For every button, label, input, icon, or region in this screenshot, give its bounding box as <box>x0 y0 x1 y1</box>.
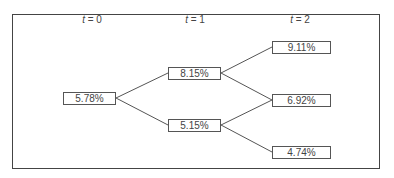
branch-n0-n1d <box>116 98 168 125</box>
node-t2-downdown: 4.74% <box>272 146 331 159</box>
branch-n1d-n2ud <box>221 100 272 125</box>
node-t1-down: 5.15% <box>168 119 221 132</box>
branch-n0-n1u <box>116 73 168 98</box>
node-t2-upup: 9.11% <box>272 41 331 54</box>
node-t2-updown: 6.92% <box>272 94 331 107</box>
time-label-t2: t = 2 <box>290 14 310 25</box>
time-label-t0: t = 0 <box>82 14 102 25</box>
branch-n1u-n2ud <box>221 73 272 100</box>
branch-n1u-n2uu <box>221 47 272 73</box>
node-t1-up: 8.15% <box>168 67 221 80</box>
branch-n1d-n2dd <box>221 125 272 152</box>
time-label-t1: t = 1 <box>185 14 205 25</box>
tree-branches <box>0 0 394 178</box>
node-root: 5.78% <box>63 92 116 105</box>
